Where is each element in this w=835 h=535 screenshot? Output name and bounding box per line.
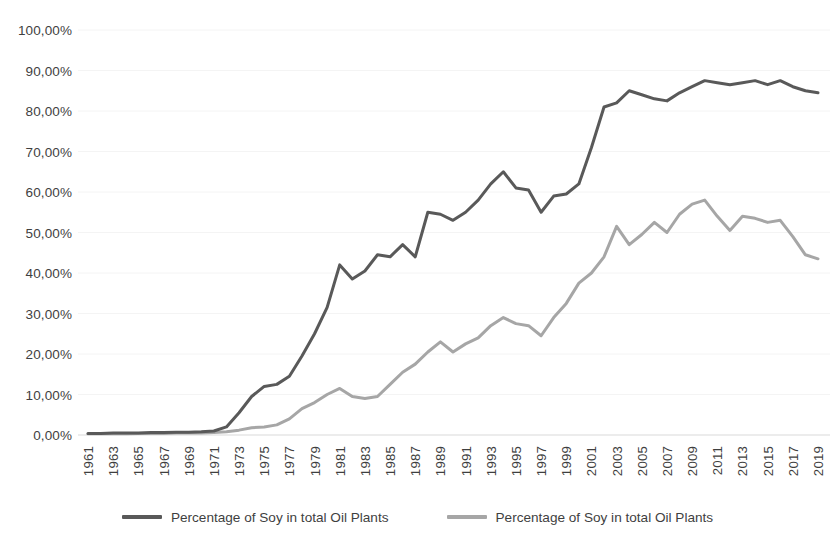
y-axis-tick-label: 20,00%	[26, 347, 72, 362]
x-axis-tick-label: 2009	[685, 446, 700, 476]
plot-area	[78, 18, 830, 442]
data-series-line	[88, 81, 818, 434]
x-axis-tick-label: 2017	[786, 446, 801, 476]
legend-label: Percentage of Soy in total Oil Plants	[496, 510, 714, 525]
y-axis-tick-label: 90,00%	[26, 63, 72, 78]
y-axis-tick-label: 40,00%	[26, 266, 72, 281]
y-axis-tick-label: 80,00%	[26, 104, 72, 119]
legend-item[interactable]: Percentage of Soy in total Oil Plants	[447, 510, 714, 525]
x-axis-tick-label: 1989	[433, 446, 448, 476]
x-axis-tick-label: 2019	[811, 446, 826, 476]
x-axis-tick-label: 1971	[207, 446, 222, 476]
x-axis-tick-label: 2005	[635, 446, 650, 476]
legend-item[interactable]: Percentage of Soy in total Oil Plants	[122, 510, 389, 525]
x-axis-tick-label: 1963	[106, 446, 121, 476]
x-axis-tick-label: 1997	[534, 446, 549, 476]
x-axis-tick-label: 1987	[408, 446, 423, 476]
chart-legend: Percentage of Soy in total Oil PlantsPer…	[0, 500, 835, 534]
x-axis-tick-label: 1983	[358, 446, 373, 476]
x-axis-tick-label: 2007	[660, 446, 675, 476]
x-axis-tick-label: 2003	[610, 446, 625, 476]
legend-line-swatch	[122, 515, 162, 518]
y-axis-tick-label: 70,00%	[26, 144, 72, 159]
x-axis-tick-label: 1985	[383, 446, 398, 476]
y-axis-tick-label: 60,00%	[26, 185, 72, 200]
x-axis-tick-label: 1981	[333, 446, 348, 476]
x-axis-tick-label: 2011	[710, 446, 725, 475]
x-axis: 1961196319651967196919711973197519771979…	[78, 446, 830, 502]
data-series-line	[88, 200, 818, 434]
x-axis-tick-label: 1993	[484, 446, 499, 476]
y-axis-tick-label: 10,00%	[26, 387, 72, 402]
x-axis-tick-label: 1973	[232, 446, 247, 476]
legend-label: Percentage of Soy in total Oil Plants	[171, 510, 389, 525]
x-axis-tick-label: 1995	[509, 446, 524, 476]
x-axis-tick-label: 1991	[459, 446, 474, 476]
y-axis: 100,00%90,00%80,00%70,00%60,00%50,00%40,…	[0, 0, 78, 460]
x-axis-tick-label: 1979	[308, 446, 323, 476]
legend-line-swatch	[447, 515, 487, 518]
x-axis-tick-label: 1961	[81, 446, 96, 476]
x-axis-tick-label: 1975	[257, 446, 272, 476]
x-axis-tick-label: 2015	[761, 446, 776, 476]
x-axis-tick-label: 1977	[282, 446, 297, 476]
chart-container: 100,00%90,00%80,00%70,00%60,00%50,00%40,…	[0, 0, 835, 535]
x-axis-tick-label: 1999	[559, 446, 574, 476]
x-axis-tick-label: 1965	[131, 446, 146, 476]
y-axis-tick-label: 50,00%	[26, 225, 72, 240]
x-axis-tick-label: 1967	[157, 446, 172, 476]
y-axis-tick-label: 100,00%	[18, 23, 72, 38]
line-chart-svg	[78, 18, 830, 442]
x-axis-tick-label: 2013	[735, 446, 750, 476]
y-axis-tick-label: 30,00%	[26, 306, 72, 321]
y-axis-tick-label: 0,00%	[33, 428, 72, 443]
x-axis-tick-label: 2001	[584, 446, 599, 476]
x-axis-tick-label: 1969	[182, 446, 197, 476]
